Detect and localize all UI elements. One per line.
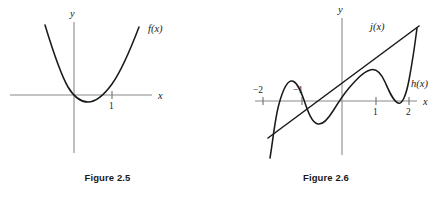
x-tick-label-1: 1 bbox=[109, 101, 114, 111]
figure-2-5-plot: x y f(x) 1 bbox=[0, 0, 215, 170]
figures-row: x y f(x) 1 Figure 2.5 bbox=[0, 0, 437, 205]
figure-2-5-svg: x y f(x) 1 bbox=[0, 0, 215, 170]
figure-2-6: x y j(x) h(x) −2 −1 1 2 Figure 2.6 bbox=[215, 0, 437, 205]
figure-2-6-svg: x y j(x) h(x) −2 −1 1 2 bbox=[215, 0, 437, 170]
x-tick-label-minus1: −1 bbox=[293, 85, 303, 95]
curve-f-of-x bbox=[45, 25, 139, 102]
figure-2-6-caption: Figure 2.6 bbox=[215, 172, 437, 183]
y-axis-label: y bbox=[69, 8, 75, 19]
x-tick-label-1: 1 bbox=[373, 107, 378, 117]
figure-2-5: x y f(x) 1 Figure 2.5 bbox=[0, 0, 215, 205]
figure-2-5-caption: Figure 2.5 bbox=[0, 172, 215, 183]
curve-label-j-of-x: j(x) bbox=[368, 21, 385, 33]
x-tick-label-minus2: −2 bbox=[253, 85, 263, 95]
x-axis-label: x bbox=[157, 90, 163, 101]
figure-2-6-plot: x y j(x) h(x) −2 −1 1 2 bbox=[215, 0, 437, 170]
x-tick-label-2: 2 bbox=[406, 107, 411, 117]
curve-label-f-of-x: f(x) bbox=[148, 23, 163, 35]
curve-j-of-x bbox=[268, 26, 419, 138]
curve-label-h-of-x: h(x) bbox=[411, 78, 428, 90]
x-axis-label: x bbox=[422, 96, 428, 107]
y-axis-label: y bbox=[337, 4, 343, 15]
